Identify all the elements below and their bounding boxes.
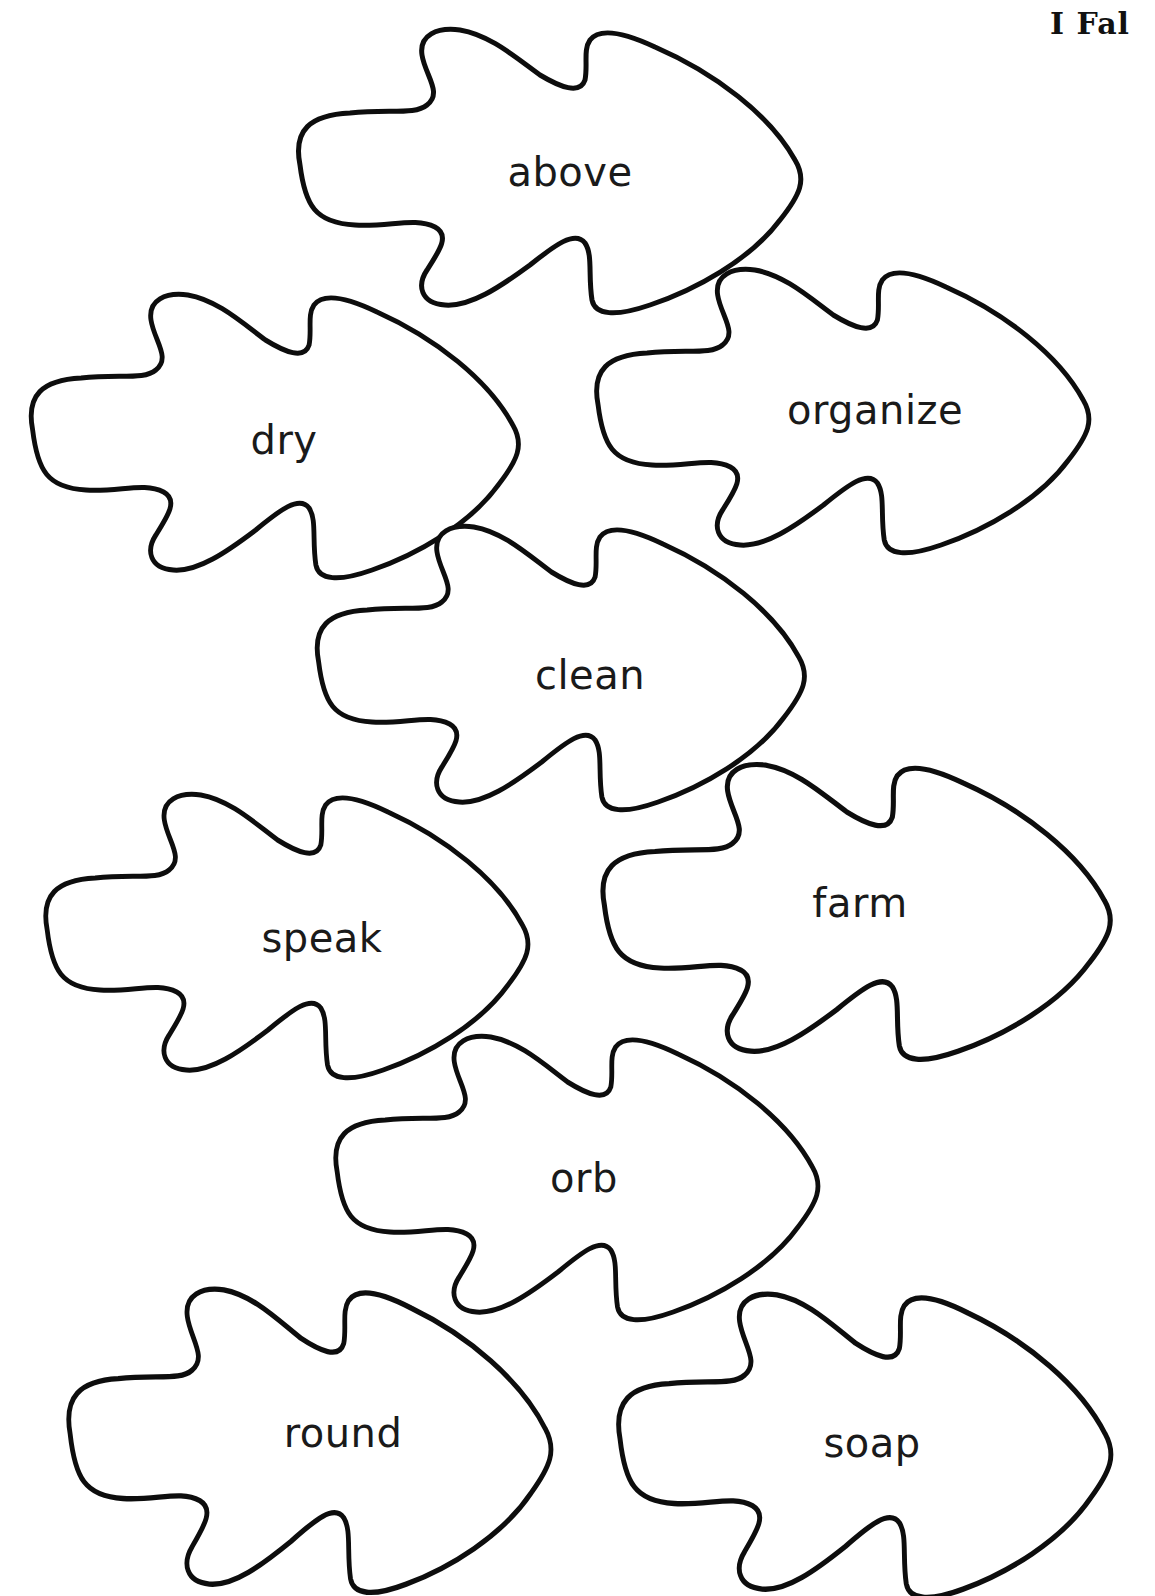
leaf-word-round: round <box>284 1410 403 1456</box>
leaf-shapes-layer <box>0 0 1155 1596</box>
leaf-word-clean: clean <box>535 652 645 698</box>
leaf-word-organize: organize <box>787 387 963 433</box>
leaf-word-farm: farm <box>812 880 907 926</box>
leaf-word-orb: orb <box>550 1155 618 1201</box>
leaf-word-speak: speak <box>261 915 382 961</box>
leaf-word-above: above <box>507 149 632 195</box>
leaf-word-dry: dry <box>250 417 317 463</box>
leaf-word-soap: soap <box>823 1420 920 1466</box>
worksheet-page: I Fal above dry organize clean speak far… <box>0 0 1155 1596</box>
